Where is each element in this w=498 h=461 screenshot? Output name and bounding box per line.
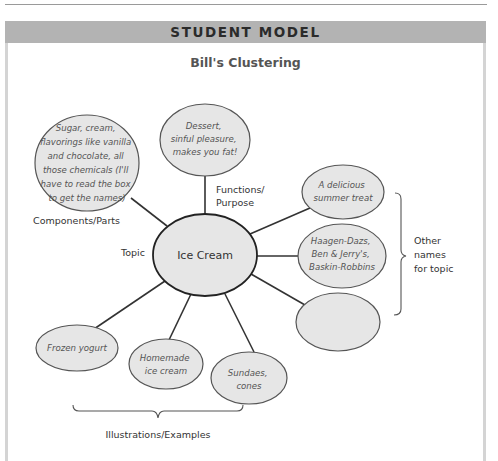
node-homemade: [129, 339, 203, 389]
label-topic: Topic: [120, 247, 145, 258]
connector-sundaes: [225, 294, 254, 352]
right-brace: [394, 193, 406, 315]
connector-empty: [251, 274, 305, 305]
label-examples: Illustrations/Examples: [105, 429, 210, 440]
label-components: Components/Parts: [33, 215, 120, 226]
node-summer: [302, 165, 384, 219]
node-sundaes: [211, 352, 287, 404]
bottom-brace: [73, 405, 243, 418]
center-label: Ice Cream: [177, 249, 233, 262]
connector-summer: [250, 208, 310, 234]
connector-homemade: [169, 294, 191, 340]
node-brands-text: Haagen-Dazs, Ben & Jerry's, Baskin-Robbi…: [309, 236, 376, 272]
label-other-names: Other names for topic: [414, 235, 454, 274]
connector-frozen: [94, 281, 165, 329]
node-frozen-text: Frozen yogurt: [47, 343, 107, 353]
label-functions: Functions/ Purpose: [216, 184, 268, 208]
node-empty: [296, 293, 380, 351]
connector-components: [131, 198, 167, 226]
